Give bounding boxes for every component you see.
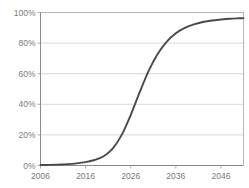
series-line <box>41 18 244 165</box>
x-axis-tick-label: 2046 <box>211 171 230 181</box>
y-axis-tick-label: 0% <box>23 161 36 171</box>
x-axis-tick-label: 2036 <box>166 171 185 181</box>
y-axis-tick-label: 20% <box>18 130 35 140</box>
x-axis-tick-label: 2026 <box>121 171 140 181</box>
x-axis-tick-label: 2006 <box>31 171 50 181</box>
y-axis-tick-label: 40% <box>18 99 35 109</box>
y-axis-tick-label: 80% <box>18 38 35 48</box>
gridlines-group <box>41 13 244 135</box>
x-axis-tick-labels: 20062016202620362046 <box>31 166 231 181</box>
data-series-group <box>41 18 244 165</box>
y-axis-tick-labels: 0%20%40%60%80%100% <box>14 8 41 171</box>
y-axis-tick-label: 60% <box>18 69 35 79</box>
line-chart-plot: 0%20%40%60%80%100% 20062016202620362046 <box>0 0 249 188</box>
y-axis-tick-label: 100% <box>14 8 36 18</box>
chart-container: 0%20%40%60%80%100% 20062016202620362046 <box>0 0 249 188</box>
x-axis-tick-label: 2016 <box>76 171 95 181</box>
